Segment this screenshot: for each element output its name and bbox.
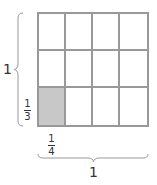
grid-cell bbox=[120, 14, 147, 51]
column-fraction-numerator: 1 bbox=[48, 134, 54, 144]
grid-cell bbox=[93, 14, 120, 51]
bottom-brace-icon bbox=[37, 153, 149, 163]
left-side-length-label: 1 bbox=[3, 61, 12, 77]
grid-cell bbox=[93, 51, 120, 88]
row-fraction-numerator: 1 bbox=[24, 99, 30, 109]
grid-cell bbox=[66, 14, 93, 51]
bottom-side-length-label: 1 bbox=[89, 164, 98, 180]
grid-cell bbox=[120, 88, 147, 125]
area-model-grid bbox=[37, 12, 149, 127]
row-fraction-label: 1 3 bbox=[24, 99, 31, 122]
left-brace-icon bbox=[14, 12, 24, 127]
grid-cell bbox=[39, 14, 66, 51]
grid-cell bbox=[39, 51, 66, 88]
grid-cell bbox=[66, 88, 93, 125]
grid-cell bbox=[120, 51, 147, 88]
grid-cell bbox=[93, 88, 120, 125]
grid-cell bbox=[66, 51, 93, 88]
row-fraction-denominator: 3 bbox=[24, 112, 30, 122]
shaded-grid-cell bbox=[39, 88, 66, 125]
